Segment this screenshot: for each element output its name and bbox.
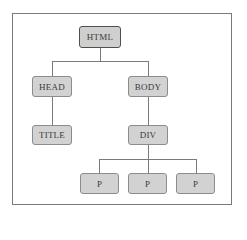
node-html: HTML [79, 26, 121, 48]
connector-to-p2 [148, 159, 149, 173]
node-p3: P [176, 173, 215, 194]
node-body: BODY [128, 76, 168, 97]
connector-body-div [148, 97, 149, 125]
connector-html-down [100, 48, 101, 61]
node-div-label: DIV [140, 130, 157, 140]
node-head-label: HEAD [39, 82, 65, 92]
node-div: DIV [128, 125, 168, 145]
node-title-label: TITLE [39, 130, 65, 140]
node-body-label: BODY [135, 82, 161, 92]
node-title: TITLE [32, 125, 72, 145]
connector-div-down [148, 145, 149, 159]
connector-to-head [52, 61, 53, 76]
node-p1: P [80, 173, 119, 194]
connector-head-title [52, 97, 53, 125]
connector-html-branch [52, 61, 149, 62]
connector-to-body [148, 61, 149, 76]
node-html-label: HTML [87, 32, 113, 42]
node-p1-label: P [97, 179, 102, 189]
node-p2: P [128, 173, 167, 194]
node-head: HEAD [32, 76, 72, 97]
connector-to-p3 [196, 159, 197, 173]
node-p3-label: P [193, 179, 198, 189]
node-p2-label: P [145, 179, 150, 189]
connector-to-p1 [99, 159, 100, 173]
